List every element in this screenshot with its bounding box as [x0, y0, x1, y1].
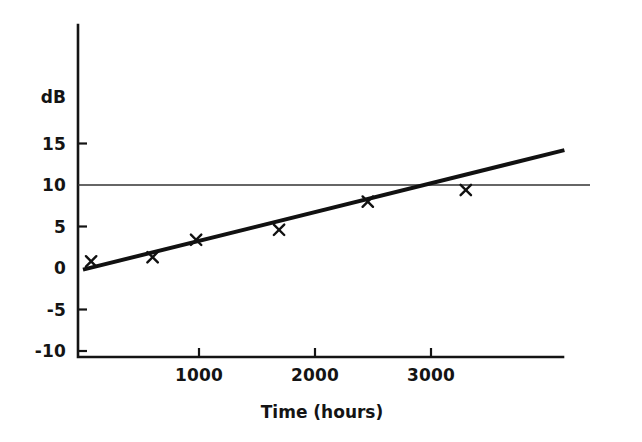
data-point-marker [274, 225, 284, 235]
y-tick-label: 0 [0, 258, 66, 278]
y-tick-label: -5 [0, 300, 66, 320]
data-point-marker [461, 185, 471, 195]
fitted-trend-line [83, 150, 564, 270]
x-tick-label: 1000 [175, 365, 223, 385]
chart-figure: dB Time (hours) -10-5051015 100020003000 [0, 0, 642, 442]
y-axis-title: dB [0, 87, 66, 107]
data-point-marker [86, 256, 96, 266]
x-tick-label: 2000 [291, 365, 339, 385]
y-tick-label: -10 [0, 341, 66, 361]
x-axis-title: Time (hours) [261, 402, 384, 422]
y-tick-label: 5 [0, 217, 66, 237]
y-tick-label: 10 [0, 175, 66, 195]
axis-lines [78, 25, 563, 357]
tick-marks [78, 144, 431, 358]
x-tick-label: 3000 [407, 365, 455, 385]
y-tick-label: 15 [0, 134, 66, 154]
